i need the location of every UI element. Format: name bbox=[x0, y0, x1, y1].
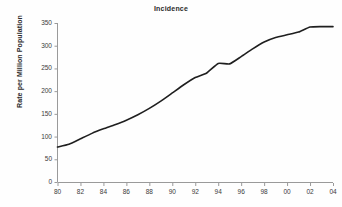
axes bbox=[58, 23, 334, 183]
y-tick-label: 100 bbox=[20, 133, 52, 140]
y-tick-label: 350 bbox=[20, 19, 52, 26]
x-axis-ticks bbox=[58, 183, 334, 186]
data-line-incidence bbox=[58, 27, 334, 147]
x-tick-label: 90 bbox=[160, 188, 184, 195]
x-tick-label: 88 bbox=[137, 188, 161, 195]
data-series-group bbox=[58, 27, 334, 147]
x-tick-label: 82 bbox=[68, 188, 92, 195]
y-tick-label: 50 bbox=[20, 155, 52, 162]
y-tick-label: 150 bbox=[20, 110, 52, 117]
x-tick-label: 04 bbox=[321, 188, 342, 195]
x-tick-label: 86 bbox=[114, 188, 138, 195]
x-tick-label: 96 bbox=[229, 188, 253, 195]
x-tick-label: 98 bbox=[252, 188, 276, 195]
x-tick-label: 84 bbox=[91, 188, 115, 195]
x-tick-label: 92 bbox=[183, 188, 207, 195]
x-tick-label: 94 bbox=[206, 188, 230, 195]
y-tick-label: 300 bbox=[20, 42, 52, 49]
x-tick-label: 00 bbox=[275, 188, 299, 195]
x-tick-label: 02 bbox=[298, 188, 322, 195]
plot-area bbox=[0, 0, 342, 207]
y-tick-label: 250 bbox=[20, 64, 52, 71]
y-tick-label: 0 bbox=[20, 178, 52, 185]
chart-figure: Incidence Rate per Million Population 05… bbox=[0, 0, 342, 207]
y-tick-label: 200 bbox=[20, 87, 52, 94]
x-tick-label: 80 bbox=[46, 188, 70, 195]
